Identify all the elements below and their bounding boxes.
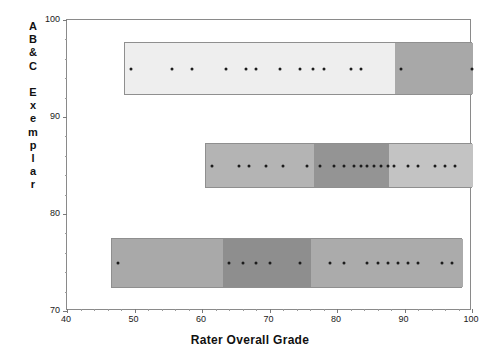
data-point — [366, 164, 369, 167]
y-axis-title-char: & — [22, 46, 44, 59]
x-tick-label: 70 — [263, 314, 273, 324]
y-tick-minor — [65, 175, 67, 176]
data-point — [255, 67, 258, 70]
x-tick-minor — [81, 309, 82, 311]
x-tick-major — [67, 309, 68, 313]
data-point — [282, 164, 285, 167]
y-axis-title-char: r — [22, 178, 44, 191]
x-tick-label: 80 — [331, 314, 341, 324]
x-tick-major — [337, 309, 338, 313]
data-point — [268, 261, 271, 264]
data-point — [417, 164, 420, 167]
band-segment — [395, 43, 473, 94]
data-point — [342, 164, 345, 167]
data-point — [342, 261, 345, 264]
data-point — [386, 261, 389, 264]
x-tick-major — [405, 309, 406, 313]
data-point — [450, 261, 453, 264]
data-point — [433, 164, 436, 167]
y-axis-title-char: a — [22, 165, 44, 178]
data-point — [228, 261, 231, 264]
x-tick-major — [270, 309, 271, 313]
data-point — [329, 261, 332, 264]
y-tick-minor — [65, 39, 67, 40]
y-tick-minor — [65, 195, 67, 196]
x-tick-minor — [162, 309, 163, 311]
x-tick-major — [135, 309, 136, 313]
y-tick-minor — [65, 156, 67, 157]
y-tick-minor — [65, 59, 67, 60]
data-point — [241, 261, 244, 264]
data-point — [305, 164, 308, 167]
y-tick-label: 70 — [36, 305, 60, 315]
data-point — [406, 164, 409, 167]
x-tick-minor — [418, 309, 419, 311]
x-tick-label: 60 — [196, 314, 206, 324]
data-point — [170, 67, 173, 70]
band-segment — [125, 43, 395, 94]
x-tick-minor — [216, 309, 217, 311]
data-point — [248, 164, 251, 167]
data-point — [366, 261, 369, 264]
data-point — [386, 164, 389, 167]
data-point — [265, 164, 268, 167]
x-tick-minor — [351, 309, 352, 311]
x-tick-minor — [283, 309, 284, 311]
x-tick-minor — [256, 309, 257, 311]
chart-root: AB&C.Exemplar 708090100 405060708090100 … — [0, 0, 500, 359]
data-point — [332, 164, 335, 167]
x-axis-title: Rater Overall Grade — [0, 333, 500, 347]
x-tick-minor — [364, 309, 365, 311]
x-tick-minor — [324, 309, 325, 311]
data-point — [417, 261, 420, 264]
data-point — [376, 261, 379, 264]
x-tick-label: 50 — [128, 314, 138, 324]
band-segment — [112, 239, 223, 287]
x-tick-minor — [94, 309, 95, 311]
y-axis-title-char: C — [22, 60, 44, 73]
y-axis-title-char: E — [22, 86, 44, 99]
y-tick-minor — [65, 98, 67, 99]
y-axis-title-char: m — [22, 126, 44, 139]
data-point — [444, 164, 447, 167]
y-tick-minor — [65, 78, 67, 79]
x-tick-minor — [108, 309, 109, 311]
data-point — [238, 164, 241, 167]
y-tick-major — [63, 117, 67, 118]
band-segment — [389, 144, 473, 187]
x-tick-minor — [148, 309, 149, 311]
band-segment — [206, 144, 314, 187]
x-tick-minor — [310, 309, 311, 311]
data-point — [373, 164, 376, 167]
x-tick-minor — [297, 309, 298, 311]
data-point — [349, 67, 352, 70]
band-middle — [205, 143, 472, 188]
y-tick-minor — [65, 292, 67, 293]
x-tick-label: 100 — [463, 314, 478, 324]
y-tick-label: 80 — [36, 208, 60, 218]
data-point — [440, 261, 443, 264]
data-point — [255, 261, 258, 264]
y-axis-title-char: p — [22, 139, 44, 152]
data-point — [312, 67, 315, 70]
y-tick-label: 100 — [36, 14, 60, 24]
data-point — [359, 67, 362, 70]
y-tick-minor — [65, 136, 67, 137]
x-tick-major — [202, 309, 203, 313]
data-point — [471, 67, 474, 70]
x-tick-minor — [175, 309, 176, 311]
data-point — [298, 67, 301, 70]
x-tick-minor — [445, 309, 446, 311]
y-tick-label: 90 — [36, 111, 60, 121]
x-tick-minor — [121, 309, 122, 311]
data-point — [379, 164, 382, 167]
y-tick-minor — [65, 272, 67, 273]
y-tick-major — [63, 311, 67, 312]
x-tick-minor — [378, 309, 379, 311]
x-tick-label: 90 — [398, 314, 408, 324]
plot-area — [66, 19, 471, 310]
data-point — [393, 164, 396, 167]
y-axis-title: AB&C.Exemplar — [22, 20, 44, 191]
data-point — [116, 261, 119, 264]
data-point — [396, 261, 399, 264]
